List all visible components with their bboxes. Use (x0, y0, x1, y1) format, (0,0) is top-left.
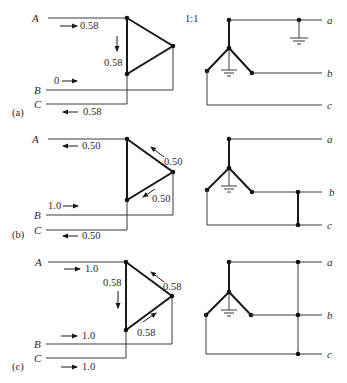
current-arrow-C: 0.50 (63, 230, 100, 241)
panel-label: (b) (12, 229, 25, 241)
label-b: b (327, 309, 333, 321)
panel-a: A B C (a) 0.58 0.58 0 (12, 12, 333, 119)
current-arrow-A: 0.58 (60, 20, 98, 31)
ground-fault-a (290, 18, 308, 44)
current-arrow-delta-upper: 0.50 (151, 147, 182, 167)
label-A: A (34, 256, 42, 268)
current-arrow-B: 0 (54, 75, 77, 86)
turns-ratio-label: 1:1 (185, 13, 198, 24)
current-arrow-C: 1.0 (61, 361, 95, 372)
wye-winding (205, 137, 255, 195)
label-c: c (327, 219, 332, 231)
svg-text:1.0: 1.0 (85, 263, 98, 274)
label-a: a (327, 256, 333, 268)
three-phase-fault-abc (296, 260, 301, 357)
label-C: C (34, 352, 42, 364)
svg-text:0: 0 (54, 75, 59, 86)
wye-winding (204, 260, 254, 318)
label-C: C (34, 224, 42, 236)
transformer-fault-diagram: A B C (a) 0.58 0.58 0 (0, 0, 347, 383)
svg-text:0.50: 0.50 (152, 193, 170, 204)
current-arrow-delta-lower: 0.50 (143, 189, 170, 204)
svg-text:0.50: 0.50 (82, 140, 100, 151)
svg-text:0.58: 0.58 (83, 106, 101, 117)
label-b: b (327, 67, 333, 79)
current-arrow-C: 0.58 (63, 106, 101, 117)
current-arrow-A: 1.0 (64, 263, 98, 274)
label-C: C (34, 98, 42, 110)
panel-label: (c) (12, 361, 24, 373)
svg-text:0.58: 0.58 (103, 277, 121, 288)
secondary-wires (207, 139, 322, 225)
current-arrow-B: 1.0 (61, 330, 95, 341)
label-c: c (327, 99, 332, 111)
svg-text:0.58: 0.58 (104, 57, 122, 68)
svg-text:1.0: 1.0 (82, 330, 95, 341)
svg-text:0.50: 0.50 (164, 156, 182, 167)
panel-c: A B C (c) 1.0 0.58 0.58 0.58 (12, 256, 333, 373)
panel-label: (a) (12, 107, 24, 119)
svg-text:0.58: 0.58 (80, 20, 98, 31)
svg-text:0.58: 0.58 (163, 281, 181, 292)
current-arrow-delta: 0.58 (103, 277, 121, 308)
label-a: a (327, 133, 333, 145)
label-a: a (327, 14, 333, 26)
wye-winding (205, 18, 255, 76)
secondary-wires (207, 20, 322, 105)
current-arrow-A: 0.50 (63, 140, 100, 151)
label-B: B (34, 209, 41, 221)
label-B: B (34, 338, 41, 350)
delta-winding (125, 16, 176, 77)
panel-b: A B C (b) 0.50 0.50 0.50 1.0 (12, 133, 335, 241)
svg-text:1.0: 1.0 (48, 200, 61, 211)
secondary-wires (206, 262, 322, 354)
current-arrow-delta-lower: 0.58 (137, 313, 156, 338)
svg-text:0.58: 0.58 (137, 327, 155, 338)
svg-text:1.0: 1.0 (82, 361, 95, 372)
label-A: A (31, 133, 39, 145)
current-arrow-B: 1.0 (48, 200, 78, 211)
delta-winding (124, 260, 175, 333)
label-A: A (31, 12, 39, 24)
line-to-line-fault-bc (296, 190, 301, 228)
current-arrow-delta: 0.58 (104, 36, 122, 68)
label-b: b (329, 186, 335, 198)
label-c: c (327, 348, 332, 360)
label-B: B (34, 84, 41, 96)
svg-text:0.50: 0.50 (82, 230, 100, 241)
current-arrow-delta-upper: 0.58 (151, 272, 181, 292)
